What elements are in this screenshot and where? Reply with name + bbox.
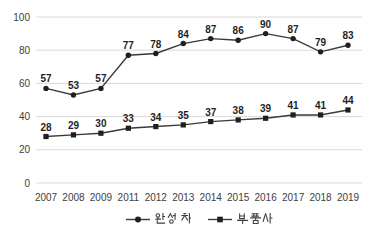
series-1-point-marker (98, 86, 103, 91)
y-axis-tick-label: 60 (19, 78, 31, 89)
x-axis-tick-label: 2017 (282, 192, 305, 203)
data-label: 41 (315, 100, 327, 111)
legend-label-bupumsa (237, 213, 274, 225)
x-axis-tick-label: 2019 (337, 192, 360, 203)
data-label: 29 (68, 120, 80, 131)
series-2-point-marker (126, 126, 131, 131)
series-2-point-marker (318, 112, 323, 117)
data-label: 35 (178, 110, 190, 121)
series-1-point-marker (153, 51, 158, 56)
series-2-point-marker (153, 124, 158, 129)
data-label: 86 (233, 25, 245, 36)
data-label: 37 (205, 107, 217, 118)
data-label: 28 (40, 122, 52, 133)
series-1-point-marker (263, 31, 268, 36)
series-1-point-marker (290, 36, 295, 41)
data-label: 39 (260, 103, 272, 114)
legend-label-wanseongcha (155, 213, 192, 225)
series-2-point-marker (43, 134, 48, 139)
y-axis-tick-label: 100 (13, 12, 30, 23)
data-label: 38 (233, 105, 245, 116)
data-label: 83 (342, 30, 354, 41)
data-label: 78 (150, 39, 162, 50)
legend-item-bupumsa: 부품사 (207, 213, 274, 225)
x-axis-tick-label: 2018 (309, 192, 332, 203)
x-axis-tick-label: 2011 (118, 192, 140, 203)
x-axis-tick-label: 2009 (90, 192, 113, 203)
data-label: 34 (150, 112, 162, 123)
hangul-glyph (237, 213, 249, 225)
hangul-glyph (167, 213, 179, 225)
series-2-point-marker (71, 132, 76, 137)
line-chart: 0204060801002007200820092011201220132014… (0, 0, 372, 233)
y-axis-tick-label: 40 (19, 111, 31, 122)
series-2-point-marker (208, 119, 213, 124)
series-1-point-marker (235, 38, 240, 43)
data-label: 90 (260, 19, 272, 30)
series-1-point-marker (345, 43, 350, 48)
series-2-point-marker (345, 107, 350, 112)
chart-container: 0204060801002007200820092011201220132014… (0, 0, 372, 233)
legend-line-square-marker-icon (207, 214, 233, 225)
x-axis-tick-label: 2013 (172, 192, 195, 203)
series-1-point-marker (181, 41, 186, 46)
legend-line-circle-marker-icon (125, 214, 151, 225)
x-axis-tick-label: 2007 (35, 192, 58, 203)
x-axis-tick-label: 2016 (255, 192, 278, 203)
data-label: 44 (342, 95, 354, 106)
data-label: 57 (40, 73, 52, 84)
data-label: 57 (95, 73, 107, 84)
legend-item-wanseongcha: 완성차 (125, 213, 192, 225)
data-label: 30 (95, 118, 107, 129)
hangul-glyph (180, 213, 192, 225)
data-label: 87 (205, 24, 217, 35)
series-2-point-marker (98, 131, 103, 136)
hangul-glyph (262, 213, 274, 225)
series-2-point-marker (290, 112, 295, 117)
chart-legend: 완성차 부품사 (0, 210, 372, 228)
hangul-glyph (155, 213, 167, 225)
series-2-point-marker (181, 122, 186, 127)
x-axis-tick-label: 2008 (62, 192, 85, 203)
series-2-point-marker (263, 116, 268, 121)
y-axis-tick-label: 80 (19, 45, 31, 56)
series-2-point-marker (236, 117, 241, 122)
data-label: 87 (288, 24, 300, 35)
data-label: 41 (288, 100, 300, 111)
data-label: 79 (315, 37, 327, 48)
data-label: 53 (68, 80, 80, 91)
series-1-line (46, 34, 348, 95)
x-axis-tick-label: 2015 (227, 192, 250, 203)
hangul-glyph (250, 213, 262, 225)
x-axis-tick-label: 2014 (200, 192, 223, 203)
series-1-point-marker (126, 52, 131, 57)
data-label: 84 (178, 29, 190, 40)
series-1-point-marker (318, 49, 323, 54)
series-1-point-marker (43, 86, 48, 91)
data-label: 77 (123, 40, 135, 51)
data-label: 33 (123, 113, 135, 124)
series-1-point-marker (208, 36, 213, 41)
series-1-point-marker (71, 92, 76, 97)
x-axis-tick-label: 2012 (145, 192, 168, 203)
y-axis-tick-label: 0 (24, 178, 30, 189)
series-2-line (46, 110, 348, 137)
y-axis-tick-label: 20 (19, 144, 31, 155)
